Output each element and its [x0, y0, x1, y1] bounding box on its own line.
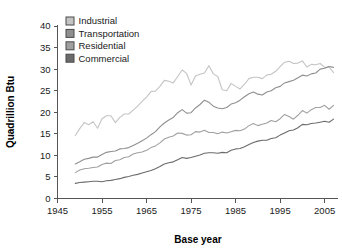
x-tick-label: 1995: [270, 205, 291, 216]
data-series-group: [75, 61, 333, 183]
line-chart: 0510152025303540 Quadrillion Btu 1945195…: [0, 0, 342, 251]
series-line-residential: [75, 105, 333, 172]
x-tick-label: 1965: [136, 205, 157, 216]
y-tick-group: 0510152025303540: [40, 20, 58, 204]
y-tick-label: 40: [40, 20, 51, 31]
x-axis: 1945195519651975198519952005 Base year: [47, 199, 338, 246]
legend-swatch-industrial: [66, 17, 74, 25]
series-line-transportation: [75, 67, 333, 164]
y-axis-title: Quadrillion Btu: [5, 76, 16, 148]
y-tick-label: 5: [45, 171, 50, 182]
x-tick-label: 1945: [47, 205, 68, 216]
y-tick-label: 20: [40, 107, 51, 118]
legend-label-residential: Residential: [79, 40, 126, 51]
y-axis: 0510152025303540 Quadrillion Btu: [5, 20, 58, 204]
x-axis-title: Base year: [174, 234, 221, 245]
x-tick-label: 1975: [181, 205, 202, 216]
x-tick-label: 2005: [314, 205, 335, 216]
y-tick-label: 0: [45, 193, 50, 204]
legend-swatch-commercial: [66, 54, 74, 62]
legend-swatch-transportation: [66, 29, 74, 37]
legend-swatch-residential: [66, 42, 74, 50]
chart-legend: IndustrialTransportationResidentialComme…: [66, 15, 139, 63]
chart-canvas: 0510152025303540 Quadrillion Btu 1945195…: [0, 0, 342, 251]
legend-label-transportation: Transportation: [79, 28, 140, 39]
y-tick-label: 35: [40, 42, 51, 53]
x-tick-label: 1955: [91, 205, 112, 216]
y-tick-label: 30: [40, 64, 51, 75]
x-tick-group: 1945195519651975198519952005: [47, 199, 335, 216]
y-tick-label: 25: [40, 85, 51, 96]
x-tick-label: 1985: [225, 205, 246, 216]
legend-label-industrial: Industrial: [79, 15, 118, 26]
y-tick-label: 15: [40, 128, 51, 139]
legend-label-commercial: Commercial: [79, 53, 130, 64]
y-tick-label: 10: [40, 150, 51, 161]
series-line-industrial: [75, 61, 333, 136]
